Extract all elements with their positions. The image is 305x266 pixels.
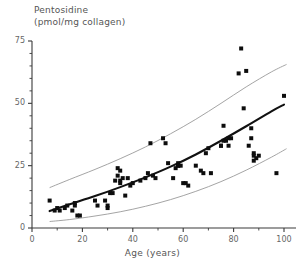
data-point — [206, 146, 210, 150]
data-point — [58, 209, 62, 213]
data-point — [143, 176, 147, 180]
data-point — [161, 136, 165, 140]
data-point — [204, 151, 208, 155]
data-point — [103, 199, 107, 203]
data-point — [146, 171, 150, 175]
data-point — [229, 136, 233, 140]
data-point — [219, 144, 223, 148]
data-point — [131, 181, 135, 185]
data-point — [247, 144, 251, 148]
data-point — [118, 169, 122, 173]
data-points-group — [48, 46, 286, 217]
data-point — [164, 141, 168, 145]
data-point — [111, 191, 115, 195]
data-point — [73, 204, 77, 208]
data-point — [249, 136, 253, 140]
data-point — [194, 164, 198, 168]
y-tick-label: 0 — [5, 223, 25, 232]
pentosidine-age-scatter-figure: Pentosidine (pmol/mg collagen) 0255075 0… — [0, 0, 305, 266]
data-point — [70, 209, 74, 213]
data-point — [257, 154, 261, 158]
confidence-bands-group — [50, 64, 287, 221]
data-point — [126, 176, 130, 180]
regression-fit-group — [50, 105, 284, 211]
data-point — [116, 174, 120, 178]
data-point — [237, 71, 241, 75]
data-point — [222, 124, 226, 128]
data-point — [148, 141, 152, 145]
x-axis-label: Age (years) — [0, 248, 305, 258]
plot-canvas — [0, 0, 305, 266]
data-point — [171, 176, 175, 180]
data-point — [96, 204, 100, 208]
data-point — [242, 106, 246, 110]
x-tick-label: 20 — [72, 235, 92, 244]
data-point — [239, 46, 243, 50]
data-point — [227, 144, 231, 148]
data-point — [244, 69, 248, 73]
x-tick-label: 0 — [22, 235, 42, 244]
lower-confidence-band — [50, 149, 287, 222]
data-point — [65, 204, 69, 208]
y-tick-label: 50 — [5, 98, 25, 107]
data-point — [179, 164, 183, 168]
data-point — [138, 179, 142, 183]
data-point — [201, 171, 205, 175]
data-point — [121, 176, 125, 180]
regression-fit-line — [50, 105, 284, 211]
data-point — [166, 161, 170, 165]
y-tick-label: 25 — [5, 161, 25, 170]
data-point — [186, 184, 190, 188]
data-point — [123, 194, 127, 198]
x-tick-label: 100 — [274, 235, 294, 244]
data-point — [282, 94, 286, 98]
y-tick-label: 75 — [5, 36, 25, 45]
data-point — [209, 171, 213, 175]
data-point — [113, 179, 117, 183]
data-point — [274, 171, 278, 175]
data-point — [93, 199, 97, 203]
data-point — [249, 126, 253, 130]
x-tick-label: 80 — [224, 235, 244, 244]
data-point — [118, 181, 122, 185]
x-tick-label: 60 — [173, 235, 193, 244]
axes-group — [32, 41, 296, 228]
data-point — [153, 176, 157, 180]
data-point — [48, 199, 52, 203]
upper-confidence-band — [50, 64, 287, 187]
data-point — [106, 206, 110, 210]
data-point — [78, 214, 82, 218]
x-tick-label: 40 — [123, 235, 143, 244]
